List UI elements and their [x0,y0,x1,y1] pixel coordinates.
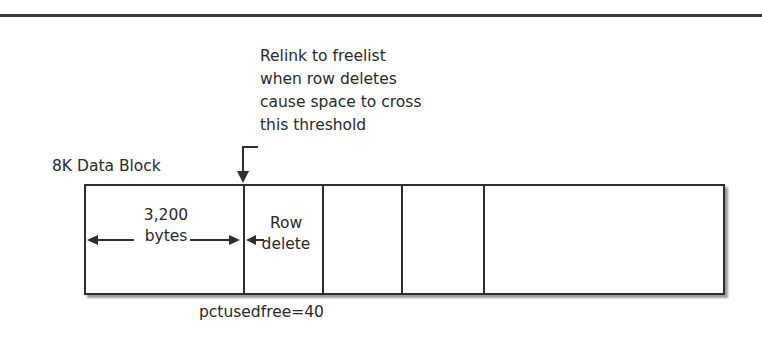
arrowhead-down-icon [237,171,249,183]
pctused-label: pctusedfree=40 [199,303,324,321]
arrows-layer [0,0,762,349]
threshold-arrow-icon [243,147,258,172]
double-arrow-icon [87,235,240,245]
row-delete-arrow-icon [246,235,264,245]
